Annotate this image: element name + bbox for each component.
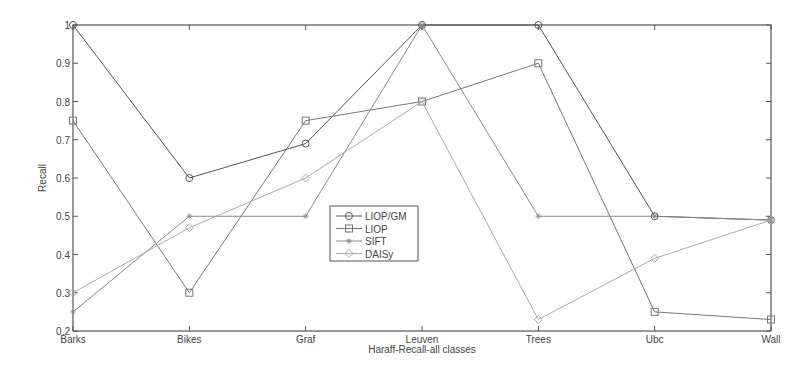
legend-label: SIFT: [365, 236, 387, 247]
y-tick-label: 0.9: [56, 58, 70, 69]
axes: 0.20.30.40.50.60.70.80.91BarksBikesGrafL…: [56, 20, 780, 345]
legend-label: LIOP/GM: [365, 211, 407, 222]
series-liop-gm: [70, 22, 775, 224]
asterisk-marker-icon: [652, 213, 658, 219]
y-tick-label: 0.8: [56, 97, 70, 108]
series-line: [73, 25, 771, 312]
x-axis-label: Haraff-Recall-all classes: [368, 344, 476, 355]
series-line: [73, 102, 771, 320]
series-liop: [70, 60, 775, 323]
y-tick-label: 0.3: [56, 288, 70, 299]
series-sift: [70, 22, 774, 315]
recall-line-chart: 0.20.30.40.50.60.70.80.91BarksBikesGrafL…: [0, 0, 812, 376]
x-tick-label: Bikes: [177, 334, 201, 345]
series-line: [73, 25, 771, 220]
series-daisy: [69, 98, 775, 324]
y-tick-label: 0.5: [56, 211, 70, 222]
asterisk-marker-icon: [303, 213, 309, 219]
x-tick-label: Graf: [296, 334, 316, 345]
y-tick-label: 0.4: [56, 250, 70, 261]
y-tick-label: 0.7: [56, 135, 70, 146]
x-tick-label: Ubc: [646, 334, 664, 345]
x-tick-label: Trees: [526, 334, 551, 345]
legend: LIOP/GMLIOPSIFTDAISy: [330, 206, 418, 261]
x-tick-label: Barks: [60, 334, 86, 345]
legend-label: DAISy: [365, 249, 393, 260]
y-tick-label: 0.6: [56, 173, 70, 184]
plot-frame: [73, 25, 771, 331]
series-lines: [69, 22, 775, 324]
x-tick-label: Wall: [761, 334, 780, 345]
y-axis-label: Recall: [37, 164, 48, 192]
asterisk-marker-icon: [535, 213, 541, 219]
legend-label: LIOP: [365, 224, 388, 235]
